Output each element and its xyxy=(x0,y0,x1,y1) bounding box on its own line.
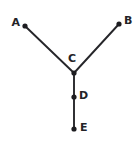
point-diagram: A B C D E xyxy=(0,0,137,147)
point-label-e: E xyxy=(80,121,88,134)
segment-group xyxy=(25,24,119,129)
point-label-d: D xyxy=(79,89,88,102)
point-marker-b[interactable] xyxy=(116,21,121,26)
point-marker-a[interactable] xyxy=(22,23,27,28)
point-label-a: A xyxy=(11,16,20,29)
point-label-c: C xyxy=(68,52,76,65)
point-marker-d[interactable] xyxy=(71,94,76,99)
point-marker-e[interactable] xyxy=(71,126,76,131)
point-label-b: B xyxy=(124,14,132,27)
segment-a-c xyxy=(25,26,74,73)
diagram-canvas: A B C D E xyxy=(0,0,137,147)
segment-b-c xyxy=(74,24,119,73)
point-marker-c[interactable] xyxy=(71,70,76,75)
